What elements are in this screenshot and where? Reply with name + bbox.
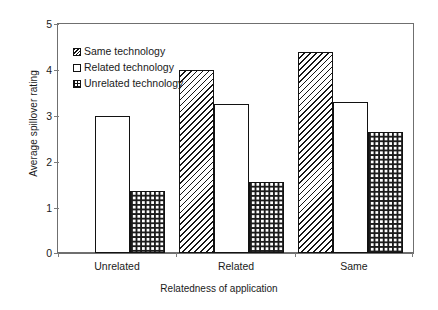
x-tick-label-unrelated: Unrelated: [81, 260, 153, 272]
x-tick-mark-2: [295, 253, 296, 257]
x-tick-mark-right: [412, 253, 413, 257]
x-tick-label-same: Same: [318, 260, 390, 272]
bar-related-related-technology: [214, 104, 249, 253]
legend-label-unrelated-technology: Unrelated technology: [84, 78, 183, 89]
y-tick-label-4: 4: [36, 65, 52, 75]
x-tick-mark-1: [176, 253, 177, 257]
legend-item-same-technology: Same technology: [73, 44, 183, 59]
bar-group-same: [295, 24, 413, 253]
legend-item-unrelated-technology: Unrelated technology: [73, 76, 183, 91]
legend-item-related-technology: Related technology: [73, 60, 183, 75]
x-axis-title: Relatedness of application: [0, 283, 438, 294]
x-tick-mark-left: [58, 253, 59, 257]
x-tick-label-related: Related: [200, 260, 272, 272]
y-tick-label-1: 1: [36, 203, 52, 213]
bar-unrelated-unrelated-technology: [130, 191, 165, 253]
bar-same-related-technology: [333, 102, 368, 253]
legend-swatch-same-technology-icon: [73, 48, 81, 56]
bar-chart: Average spillover rating 5 4 3 2 1 0: [0, 0, 438, 310]
bar-same-unrelated-technology: [368, 132, 403, 253]
bar-unrelated-related-technology: [95, 116, 130, 253]
bar-related-same-technology: [179, 70, 214, 253]
legend-swatch-related-technology-icon: [73, 64, 81, 72]
y-tick-label-5: 5: [36, 19, 52, 29]
chart-legend: Same technology Related technology Unrel…: [73, 44, 183, 92]
bar-related-unrelated-technology: [249, 182, 284, 253]
bar-group-related: [176, 24, 295, 253]
y-tick-label-0: 0: [36, 248, 52, 258]
legend-label-related-technology: Related technology: [84, 62, 174, 73]
legend-swatch-unrelated-technology-icon: [73, 80, 81, 88]
y-tick-label-3: 3: [36, 111, 52, 121]
bar-same-same-technology: [298, 52, 333, 254]
legend-label-same-technology: Same technology: [84, 46, 165, 57]
y-tick-label-2: 2: [36, 157, 52, 167]
